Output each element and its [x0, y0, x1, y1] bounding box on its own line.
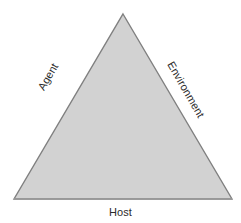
diagram-canvas: Agent Environment Host [0, 0, 241, 223]
edge-label-host: Host [0, 207, 241, 218]
